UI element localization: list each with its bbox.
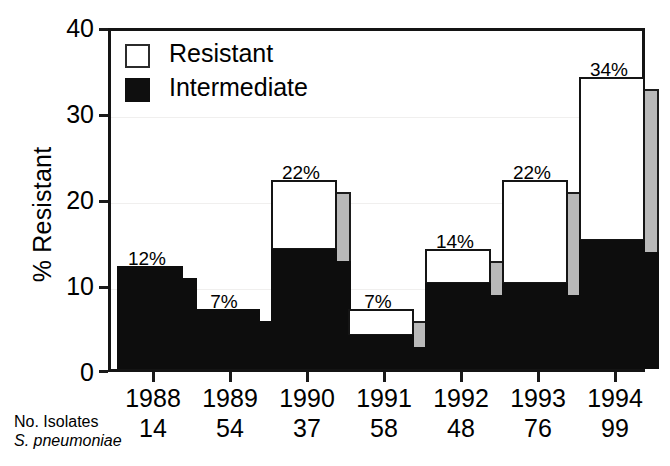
bar-value-label-1994: 34% — [576, 59, 642, 81]
x-tick-label-1994: 1994 — [573, 384, 657, 413]
x-tick-label-1991: 1991 — [342, 384, 426, 413]
isolate-count-1993: 76 — [496, 414, 580, 443]
y-tick-mark-40 — [99, 28, 108, 31]
y-tick-label-30: 30 — [36, 102, 94, 127]
bar-1992-intermediate — [425, 283, 491, 369]
y-tick-mark-20 — [99, 200, 108, 203]
x-tick-mark-1994 — [614, 372, 617, 382]
bar-1992 — [425, 249, 491, 369]
x-tick-mark-1991 — [383, 372, 386, 382]
bar-1989 — [194, 309, 260, 369]
y-tick-mark-0 — [99, 370, 108, 373]
isolate-count-1992: 48 — [419, 414, 503, 443]
isolates-row-label: No. Isolates S. pneumoniae — [14, 412, 122, 450]
isolate-count-1988: 14 — [111, 414, 195, 443]
bar-value-label-1991: 7% — [345, 291, 411, 313]
bar-value-label-1988: 12% — [114, 248, 180, 270]
bar-1993-intermediate — [502, 283, 568, 369]
bar-1994-resistant — [579, 77, 645, 240]
x-tick-mark-1988 — [152, 372, 155, 382]
x-tick-mark-1992 — [460, 372, 463, 382]
x-tick-mark-1989 — [229, 372, 232, 382]
bar-1993-resistant — [502, 180, 568, 283]
bar-1994 — [579, 77, 645, 369]
bar-1991 — [348, 309, 414, 369]
black-square-icon — [125, 78, 150, 102]
x-tick-label-1993: 1993 — [496, 384, 580, 413]
x-tick-mark-1993 — [537, 372, 540, 382]
x-tick-label-1988: 1988 — [111, 384, 195, 413]
x-tick-label-1989: 1989 — [188, 384, 272, 413]
y-tick-mark-30 — [99, 114, 108, 117]
bar-1991-intermediate — [348, 335, 414, 369]
bar-1994-intermediate — [579, 240, 645, 369]
bar-1990-intermediate — [271, 249, 337, 369]
isolate-count-1994: 99 — [573, 414, 657, 443]
y-tick-mark-10 — [99, 286, 108, 289]
bar-value-label-1990: 22% — [268, 162, 334, 184]
x-tick-mark-1990 — [306, 372, 309, 382]
x-tick-label-1990: 1990 — [265, 384, 349, 413]
bar-1990 — [271, 180, 337, 369]
bar-1992-resistant — [425, 249, 491, 283]
bar-1988 — [117, 266, 183, 369]
bar-1990-side-resistant — [337, 192, 351, 261]
x-tick-label-1992: 1992 — [419, 384, 503, 413]
isolate-count-1990: 37 — [265, 414, 349, 443]
y-tick-label-20: 20 — [36, 188, 94, 213]
plot-area: Resistant Intermediate — [108, 28, 645, 372]
bar-1993 — [502, 180, 568, 369]
gridline-30 — [111, 117, 642, 118]
bar-1994-side-resistant — [645, 89, 659, 252]
bar-value-label-1989: 7% — [191, 291, 257, 313]
isolates-row-label-line1: No. Isolates — [14, 412, 122, 431]
bar-1989-intermediate — [194, 309, 260, 369]
y-tick-label-0: 0 — [36, 360, 94, 385]
bar-1994-side-intermediate — [645, 252, 659, 369]
y-tick-label-10: 10 — [36, 274, 94, 299]
bar-value-label-1993: 22% — [499, 162, 565, 184]
bar-1988-intermediate — [117, 266, 183, 369]
isolate-count-1989: 54 — [188, 414, 272, 443]
bar-value-label-1992: 14% — [422, 231, 488, 253]
bar-chart-figure: % Resistant 40 30 20 10 0 — [0, 0, 670, 466]
isolate-count-1991: 58 — [342, 414, 426, 443]
y-tick-label-40: 40 — [36, 16, 94, 41]
legend-label-intermediate: Intermediate — [169, 73, 308, 102]
white-square-icon — [125, 44, 150, 68]
isolates-row-label-line2: S. pneumoniae — [14, 431, 122, 450]
legend-label-resistant: Resistant — [169, 39, 273, 68]
bar-1990-resistant — [271, 180, 337, 249]
